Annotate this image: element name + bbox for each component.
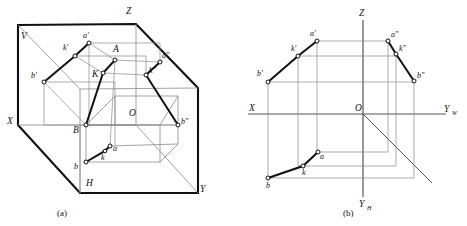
projector-A-to-aprime [89, 43, 115, 60]
vertex-a-prime [87, 41, 91, 45]
label-plane-h: H [85, 178, 94, 188]
label-b-double-prime-a: b" [181, 117, 189, 126]
label-a-low-a: a [113, 144, 117, 153]
label-k-low-b: k [302, 168, 306, 177]
vertex-A [113, 58, 117, 62]
vertex-k-double-prime-b [394, 52, 398, 56]
vertex-b-double-prime [176, 123, 180, 127]
label-origin-a: O [129, 108, 136, 118]
label-b-prime-a: b' [31, 71, 37, 80]
vertex-a-low [108, 144, 112, 148]
label-k-prime-b: k' [291, 44, 297, 53]
label-a-double-prime-b: a" [391, 30, 399, 39]
vertex-b-double-prime-b [412, 79, 416, 83]
label-axis-yh: Y [359, 199, 366, 209]
spatial-segment-AKB [86, 60, 115, 125]
panel-a: V Z X Y H O a' k' b' a" k" b" a k b A K … [6, 6, 207, 218]
projection-box-outline [18, 24, 198, 193]
label-b-prime-b: b' [257, 69, 263, 78]
label-point-A: A [112, 44, 119, 54]
label-a-prime-a: a' [83, 31, 89, 40]
vertex-k-prime-b [296, 54, 300, 58]
label-axis-y: Y [200, 184, 207, 194]
label-plane-v: V [21, 31, 28, 41]
label-k-double-prime-b: k" [399, 44, 407, 53]
label-b-low-b: b [266, 181, 270, 190]
caption-panel-b: (b) [343, 208, 354, 218]
vertex-b-prime-b [266, 80, 270, 84]
label-axis-x: X [6, 116, 14, 126]
figure-svg: V Z X Y H O a' k' b' a" k" b" a k b A K … [0, 0, 467, 226]
horizontal-projection-abk [86, 146, 110, 162]
inner-box-right-face [160, 125, 178, 162]
vertex-b-low [84, 160, 88, 164]
label-axis-yw-subscript: W [452, 110, 458, 116]
label-point-K: K [91, 69, 99, 79]
label-k-prime-a: k' [63, 43, 69, 52]
vertex-a-double-prime [158, 60, 162, 64]
vertex-b-low-b [266, 176, 270, 180]
label-point-B: B [73, 125, 79, 135]
vertex-b-prime [42, 80, 46, 84]
label-b-low-a: b [74, 162, 78, 171]
depth-line-top-left [18, 25, 80, 89]
label-k-low-a: k [101, 153, 105, 162]
vertex-a-double-prime-b [386, 39, 390, 43]
panel-b: Z X O Y W Y H a' k' b' a" k" b" a k b (b… [248, 8, 458, 218]
label-a-low-b: a [320, 152, 324, 161]
vertex-a-prime-b [315, 39, 319, 43]
figure-descriptive-geometry: V Z X Y H O a' k' b' a" k" b" a k b A K … [0, 0, 467, 226]
vertex-K [101, 71, 105, 75]
label-origin-b: O [355, 103, 362, 113]
vertex-k-double-prime [144, 73, 148, 77]
label-axis-yh-group: Y H [359, 199, 372, 211]
projector-A-to-adprime [115, 60, 160, 62]
axis-45-bisector [363, 114, 432, 183]
h-plane-diagonal-edge [136, 125, 198, 193]
caption-panel-a: (a) [57, 208, 67, 218]
label-b-double-prime-b: b" [417, 71, 425, 80]
projector-A-to-a [110, 60, 115, 146]
horizontal-projection-abk-b [268, 152, 318, 178]
label-k-double-prime-a: k" [149, 66, 157, 75]
label-a-double-prime-a: a" [162, 51, 170, 60]
vertex-B [84, 123, 88, 127]
label-axis-z: Z [126, 6, 132, 16]
vertex-k-prime [73, 54, 77, 58]
label-a-prime-b: a' [310, 29, 316, 38]
label-axis-x-b: X [248, 103, 256, 113]
label-axis-z-b: Z [359, 8, 365, 18]
construction-aprime-to-adprime [89, 43, 160, 62]
label-axis-yw: Y [444, 104, 451, 114]
label-axis-yh-subscript: H [366, 205, 372, 211]
projector-K-to-kdprime [103, 73, 146, 75]
label-axis-yw-group: Y W [444, 104, 458, 116]
